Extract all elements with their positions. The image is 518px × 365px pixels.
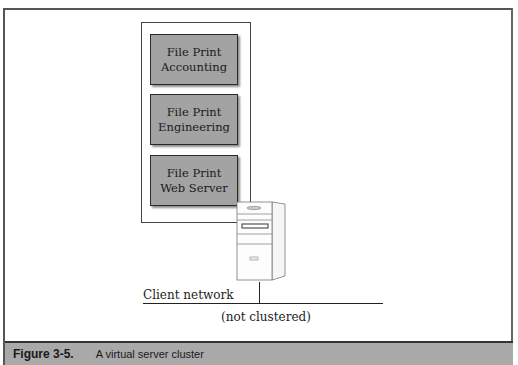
server-tower-icon xyxy=(235,200,287,283)
figure-caption: Figure 3-5. A virtual server cluster xyxy=(5,341,513,365)
virtual-server-engineering: File Print Engineering xyxy=(150,94,238,145)
not-clustered-note: (not clustered) xyxy=(221,310,311,324)
virtual-server-web: File Print Web Server xyxy=(150,155,238,206)
vs-label-line1: File Print xyxy=(167,166,222,181)
vs-label-line2: Engineering xyxy=(158,120,230,135)
vs-label-line2: Accounting xyxy=(161,60,227,75)
virtual-server-accounting: File Print Accounting xyxy=(150,34,238,85)
vs-label-line2: Web Server xyxy=(160,181,228,196)
vs-label-line1: File Print xyxy=(167,45,222,60)
server-network-link xyxy=(259,282,260,304)
client-network-label: Client network xyxy=(143,288,233,302)
vs-label-line1: File Print xyxy=(167,105,222,120)
client-network-line xyxy=(143,303,383,304)
figure-title: A virtual server cluster xyxy=(96,348,204,360)
figure-number: Figure 3-5. xyxy=(13,347,74,361)
